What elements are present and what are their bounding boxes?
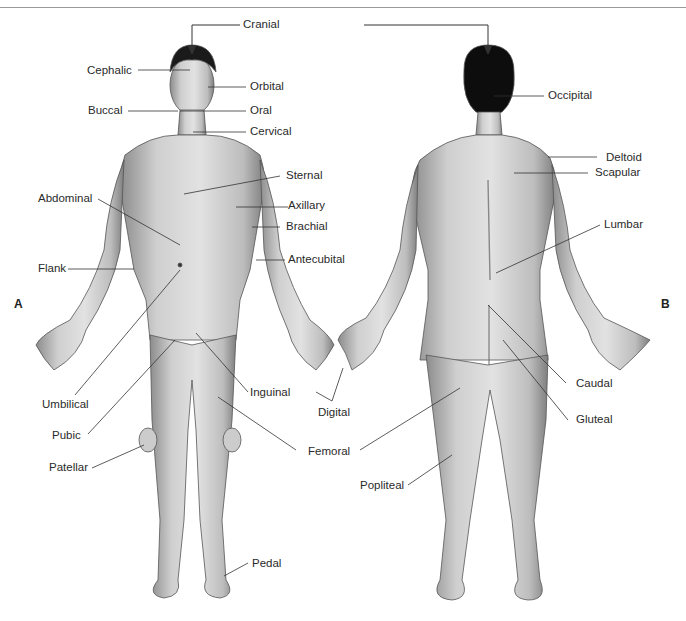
label-cephalic: Cephalic	[87, 64, 132, 77]
panel-label-a: A	[14, 297, 23, 311]
label-deltoid: Deltoid	[606, 151, 642, 164]
label-popliteal: Popliteal	[360, 479, 404, 492]
label-cranial: Cranial	[243, 18, 279, 31]
label-patellar: Patellar	[49, 461, 88, 474]
label-oral: Oral	[250, 104, 272, 117]
label-axillary: Axillary	[288, 199, 325, 212]
label-sternal: Sternal	[286, 169, 322, 182]
label-pedal: Pedal	[252, 557, 281, 570]
label-antecubital: Antecubital	[288, 253, 345, 266]
label-flank: Flank	[38, 262, 66, 275]
panel-label-b: B	[661, 297, 670, 311]
label-occipital: Occipital	[548, 89, 592, 102]
posterior-figure	[338, 45, 650, 600]
label-lumbar: Lumbar	[604, 218, 643, 231]
label-gluteal: Gluteal	[576, 413, 612, 426]
label-buccal: Buccal	[88, 104, 123, 117]
label-scapular: Scapular	[595, 166, 640, 179]
label-digital: Digital	[318, 406, 350, 419]
label-orbital: Orbital	[250, 80, 284, 93]
cranial-arrows	[188, 25, 492, 54]
label-inguinal: Inguinal	[250, 386, 290, 399]
label-umbilical: Umbilical	[42, 398, 89, 411]
label-caudal: Caudal	[576, 377, 612, 390]
label-abdominal: Abdominal	[38, 192, 92, 205]
label-pubic: Pubic	[52, 429, 81, 442]
label-femoral: Femoral	[308, 445, 350, 458]
label-brachial: Brachial	[286, 220, 328, 233]
label-cervical: Cervical	[250, 125, 292, 138]
